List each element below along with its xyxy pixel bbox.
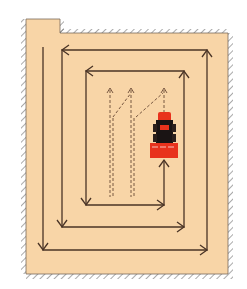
- mowing-diagram: [0, 0, 247, 289]
- field-area: [26, 19, 228, 274]
